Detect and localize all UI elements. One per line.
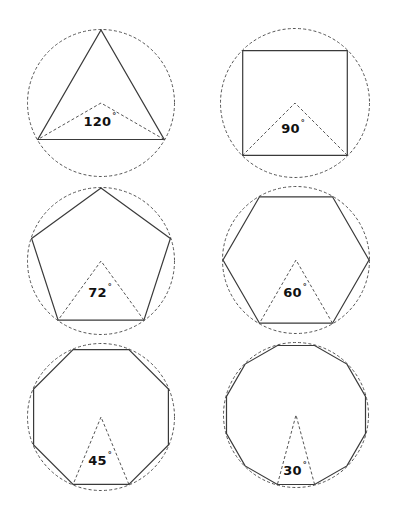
- angle-label-120: 120°: [84, 115, 117, 128]
- angle-value: 72: [88, 285, 107, 300]
- angle-value: 60: [283, 285, 302, 300]
- pentagon-shape: [32, 188, 171, 320]
- degree-symbol: °: [303, 283, 307, 292]
- polygon-diagram: [0, 0, 395, 506]
- angle-label-90: 90°: [281, 122, 305, 135]
- angle-label-45: 45°: [88, 454, 112, 467]
- figure-pentagon: [28, 188, 175, 335]
- angle-label-72: 72°: [88, 286, 112, 299]
- degree-symbol: °: [108, 451, 112, 460]
- angle-label-60: 60°: [283, 286, 307, 299]
- figure-triangle: [28, 30, 175, 177]
- figure-square: [221, 29, 370, 178]
- figure-octagon: [28, 344, 175, 491]
- degree-symbol: °: [108, 283, 112, 292]
- degree-symbol: °: [303, 461, 307, 470]
- degree-symbol: °: [301, 119, 305, 128]
- figure-hexagon: [223, 187, 370, 334]
- angle-label-30: 30°: [283, 464, 307, 477]
- central-angle-wedge: [73, 417, 129, 484]
- angle-value: 30: [283, 463, 302, 478]
- angle-value: 120: [84, 114, 112, 129]
- angle-value: 45: [88, 453, 107, 468]
- angle-value: 90: [281, 121, 300, 136]
- degree-symbol: °: [112, 112, 116, 121]
